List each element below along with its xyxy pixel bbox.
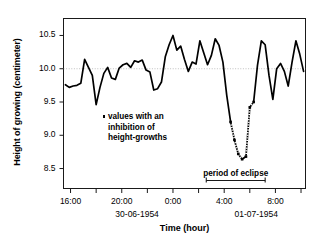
x-tick-label: 0:00 xyxy=(153,196,193,206)
plot-frame xyxy=(64,19,306,189)
y-tick-label: 9.5 xyxy=(28,96,56,106)
annotation-text-1: values with an xyxy=(108,112,164,121)
data-series-line xyxy=(65,35,303,159)
y-tick-label: 10.5 xyxy=(28,29,56,39)
y-tick-label: 10.0 xyxy=(28,63,56,73)
x-tick-label: 4:00 xyxy=(204,196,244,206)
x-axis-title: Time (hour) xyxy=(63,223,306,233)
x-axis-ticks xyxy=(71,189,301,194)
x-tick-label: 16:00 xyxy=(51,196,91,206)
annotation-text-3: height-growths xyxy=(103,133,167,144)
x-axis-date-label: 30-06-1954 xyxy=(102,209,172,219)
annotation-text-2: inhibition of xyxy=(103,123,167,134)
y-axis-ticks xyxy=(60,35,64,168)
annotation-eclipse-label: period of eclipse xyxy=(203,169,268,180)
x-tick-label: 20:00 xyxy=(102,196,142,206)
x-axis-date-label: 01-07-1954 xyxy=(221,209,291,219)
annotation-line-1: values with an xyxy=(103,112,167,123)
x-tick-label: 8:00 xyxy=(255,196,295,206)
bullet-marker-icon xyxy=(103,115,105,117)
chart-figure: Height of growing (centimeter) 10.510.09… xyxy=(0,0,321,241)
y-tick-label: 8.5 xyxy=(28,163,56,173)
annotation-inhibition: values with an inhibition of height-grow… xyxy=(103,112,167,144)
y-tick-label: 9.0 xyxy=(28,129,56,139)
